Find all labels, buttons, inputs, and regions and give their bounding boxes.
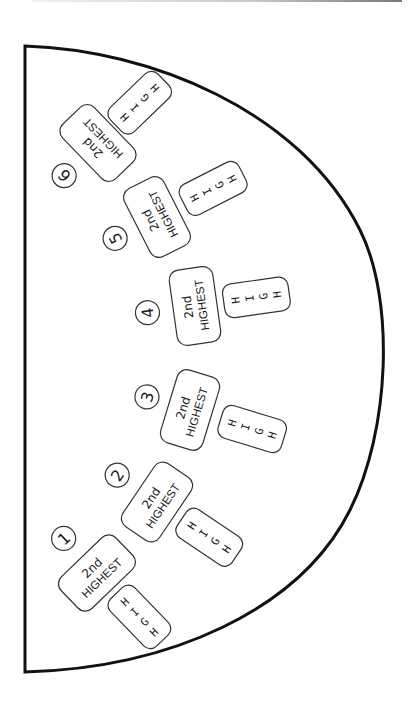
table-diagram: 1 2nd HIGHEST H I G H 2 2nd HIGHEST H I: [0, 0, 409, 707]
